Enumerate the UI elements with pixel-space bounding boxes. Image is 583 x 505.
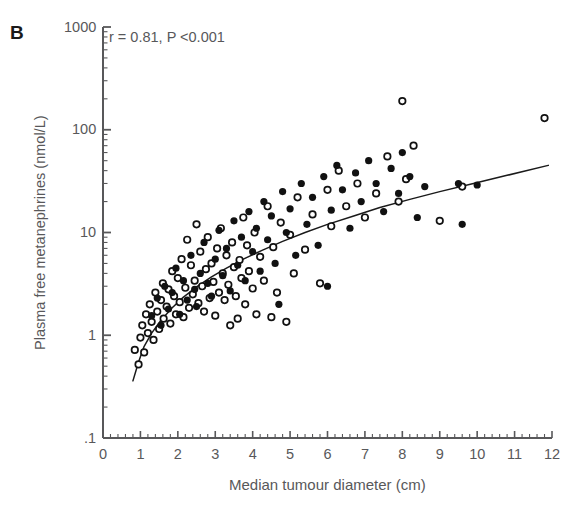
x-tick-label: 8 [398,446,406,462]
x-tick-label: 3 [211,446,219,462]
regression-curve-layer [133,165,548,380]
x-tick-label: 0 [99,446,107,462]
y-tick-label: 100 [72,121,96,137]
y-tick-label: 10 [80,224,96,240]
statistics-annotation: r = 0.81, P <0.001 [109,29,225,45]
x-tick-label: 9 [436,446,444,462]
x-tick-label: 10 [469,446,485,462]
x-tick-label: 6 [324,446,332,462]
x-tick-label: 4 [249,446,257,462]
x-tick-label: 11 [507,446,522,462]
y-tick-label: .1 [84,430,96,446]
y-axis-label: Plasma free metanephrines (nmol/L) [32,115,48,350]
y-tick-label: 1000 [64,19,96,35]
y-tick-label: 1 [88,327,96,343]
x-tick-label: 12 [544,446,560,462]
axis-layer [103,27,552,438]
x-tick-label: 1 [136,446,144,462]
x-axis-label: Median tumour diameter (cm) [229,476,426,493]
open-circle-series [132,98,548,368]
panel-label: B [10,22,24,44]
x-tick-label: 7 [361,446,369,462]
x-tick-label: 2 [174,446,182,462]
figure-panel-b: B r = 0.81, P <0.001 Plasma free metanep… [0,0,583,505]
x-tick-label: 5 [286,446,294,462]
